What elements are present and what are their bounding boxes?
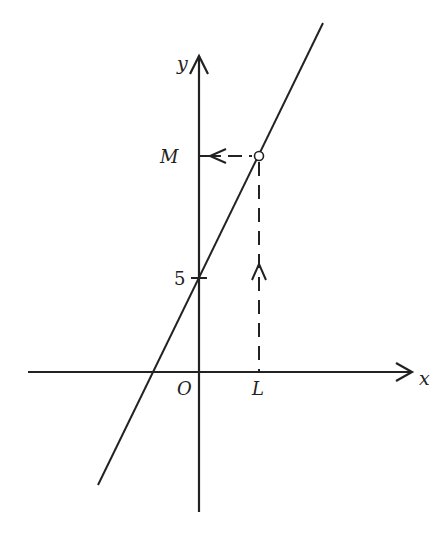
origin-label: O (177, 378, 192, 399)
x-axis-label: x (419, 367, 430, 389)
point-m-label: M (159, 146, 179, 167)
y-intercept-label: 5 (174, 268, 185, 289)
point-l-label: L (251, 378, 264, 399)
x-axis (28, 363, 412, 381)
y-axis (190, 56, 208, 512)
graph-line (98, 23, 323, 485)
line-graph-diagram: y x O L M 5 (0, 0, 446, 536)
marked-point (255, 152, 264, 161)
y-axis-label: y (176, 52, 188, 74)
